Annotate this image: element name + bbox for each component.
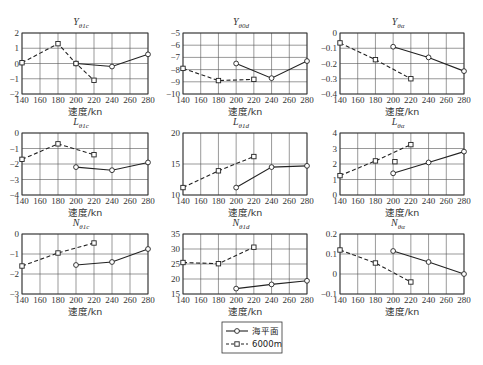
marker-circle <box>462 149 467 154</box>
subplot-l-θ1c: −4−3−2−10140160180200220240260280速度/knLθ… <box>9 116 155 218</box>
y-tick-label: 0 <box>15 128 20 138</box>
subplot-title: Nθ1d <box>231 217 250 231</box>
x-tick-label: 260 <box>283 95 297 105</box>
marker-square <box>216 78 220 82</box>
y-tick-label: 0.1 <box>326 249 337 259</box>
x-tick-label: 280 <box>300 95 314 105</box>
x-tick-label: 280 <box>300 295 314 305</box>
marker-square <box>20 61 24 65</box>
x-tick-label: 140 <box>176 295 190 305</box>
y-tick-label: 30 <box>171 244 181 254</box>
x-tick-label: 180 <box>369 196 383 206</box>
y-tick-label: −5 <box>170 28 180 38</box>
y-tick-label: −2 <box>9 269 19 279</box>
x-tick-label: 240 <box>422 95 436 105</box>
marker-circle <box>426 160 431 165</box>
marker-circle <box>462 272 467 277</box>
y-tick-label: −6 <box>170 40 180 50</box>
x-tick-label: 200 <box>386 295 400 305</box>
marker-square <box>56 41 60 45</box>
x-axis-label: 速度/kn <box>68 306 103 317</box>
x-tick-label: 180 <box>51 95 65 105</box>
y-tick-label: 1 <box>15 43 20 53</box>
marker-circle <box>234 185 239 190</box>
subplot-l-θ1d: 101520140160180200220240260280速度/knLθ1d <box>171 116 314 218</box>
y-tick-label: −8 <box>170 65 180 75</box>
x-tick-label: 160 <box>194 295 208 305</box>
x-tick-label: 180 <box>369 95 383 105</box>
marker-square <box>338 41 342 45</box>
x-tick-label: 180 <box>369 295 383 305</box>
x-tick-label: 280 <box>300 196 314 206</box>
marker-square <box>373 159 377 163</box>
subplot-n-θα: −0.100.10.2140160180200220240260280速度/kn… <box>321 217 472 317</box>
y-tick-label: 4 <box>333 128 338 138</box>
marker-square <box>252 77 256 81</box>
x-tick-label: 200 <box>229 196 243 206</box>
y-tick-label: 0.2 <box>326 229 337 239</box>
marker-circle <box>426 55 431 60</box>
x-axis-label: 速度/kn <box>385 106 420 117</box>
x-tick-label: 220 <box>404 196 418 206</box>
x-tick-label: 240 <box>105 95 119 105</box>
x-tick-label: 200 <box>229 295 243 305</box>
y-tick-label: −1 <box>9 249 19 259</box>
x-tick-label: 220 <box>87 295 101 305</box>
y-tick-label: 0 <box>333 269 338 279</box>
y-tick-label: −7 <box>170 52 180 62</box>
x-tick-label: 200 <box>229 95 243 105</box>
legend-marker-circle <box>235 329 240 334</box>
subplot-l-θα: 01234140160180200220240260280速度/knLθα <box>333 116 472 218</box>
marker-square <box>92 153 96 157</box>
marker-circle <box>305 59 310 64</box>
y-tick-label: 15 <box>171 159 181 169</box>
x-tick-label: 160 <box>194 95 208 105</box>
x-tick-label: 160 <box>351 196 365 206</box>
plot-frame <box>183 33 307 94</box>
marker-square <box>373 261 377 265</box>
y-tick-label: 20 <box>171 128 181 138</box>
marker-circle <box>391 249 396 254</box>
x-tick-label: 140 <box>15 196 29 206</box>
subplot-title: Lθα <box>391 116 405 130</box>
y-tick-label: −0.2 <box>321 59 337 69</box>
x-tick-label: 240 <box>265 95 279 105</box>
y-tick-label: 0 <box>15 59 20 69</box>
x-tick-label: 160 <box>33 196 47 206</box>
y-tick-label: 35 <box>171 229 181 239</box>
y-tick-label: −0.3 <box>321 74 338 84</box>
x-tick-label: 180 <box>212 95 226 105</box>
y-tick-label: −1 <box>9 74 19 84</box>
y-tick-label: 20 <box>171 274 181 284</box>
marker-square <box>181 260 185 264</box>
x-tick-label: 140 <box>333 95 347 105</box>
y-tick-label: −0.1 <box>321 43 337 53</box>
x-tick-label: 220 <box>247 295 261 305</box>
marker-circle <box>74 263 79 268</box>
x-tick-label: 200 <box>386 196 400 206</box>
marker-circle <box>110 168 115 173</box>
x-tick-label: 140 <box>15 295 29 305</box>
marker-square <box>20 264 24 268</box>
y-tick-label: 0 <box>15 229 20 239</box>
x-tick-label: 160 <box>351 95 365 105</box>
marker-square <box>338 173 342 177</box>
x-tick-label: 200 <box>69 196 83 206</box>
marker-square <box>56 251 60 255</box>
y-tick-label: 0 <box>333 28 338 38</box>
legend-label: 6000m <box>252 339 282 349</box>
x-tick-label: 260 <box>440 95 454 105</box>
x-tick-label: 160 <box>194 196 208 206</box>
x-tick-label: 140 <box>333 196 347 206</box>
figure: −2−1012140160180200220240260280速度/knYθ1c… <box>0 0 483 365</box>
marker-circle <box>74 165 79 170</box>
x-tick-label: 280 <box>141 95 155 105</box>
x-tick-label: 260 <box>123 295 137 305</box>
x-tick-label: 260 <box>123 95 137 105</box>
plot-frame <box>340 234 464 294</box>
marker-square <box>181 185 185 189</box>
marker-circle <box>391 44 396 49</box>
x-axis-label: 速度/kn <box>385 207 420 218</box>
subplot-y-θα: −0.4−0.3−0.2−0.1014016018020022024026028… <box>321 16 472 117</box>
x-tick-label: 240 <box>105 196 119 206</box>
